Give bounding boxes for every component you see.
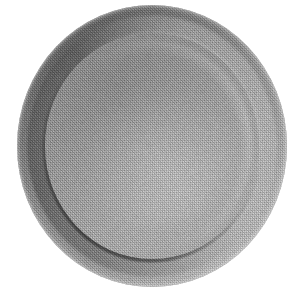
plate-well [45, 33, 258, 259]
region-label-well: Plate well [0, 0, 1, 1]
image-description: Grayscale halftone catalog photograph of… [0, 0, 1, 1]
region-label-outer-rim: Outer rim [0, 0, 1, 1]
region-label-rim-shadow: Inner rim shadow band [0, 0, 1, 1]
well-sheen-highlight [73, 63, 231, 230]
photo-canvas: Round grey plate, top-down view, white b… [0, 0, 301, 292]
region-label-background: Background [0, 0, 1, 1]
image-caption: Round grey plate, top-down view, white b… [17, 5, 18, 6]
image-subject: plate [0, 0, 1, 1]
plate-photograph: Round grey plate, top-down view, white b… [17, 5, 287, 287]
plate-outer-rim [17, 5, 287, 287]
lighting-direction: lower-right [0, 0, 1, 1]
